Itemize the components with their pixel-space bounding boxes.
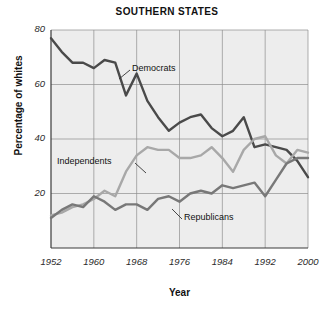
y-tick-label: 60 [23,78,45,89]
series-annotation-independents: Independents [57,156,112,166]
x-tick-label: 1976 [163,256,197,267]
x-tick-label: 2000 [291,256,325,267]
y-tick-label: 40 [23,132,45,143]
y-tick-label: 80 [23,23,45,34]
series-annotation-democrats: Democrats [132,63,176,73]
x-tick-label: 1984 [205,256,239,267]
x-tick-label: 1960 [77,256,111,267]
x-tick-label: 1968 [120,256,154,267]
x-tick-label: 1952 [34,256,68,267]
chart-container: SOUTHERN STATES Percentage of whites Yea… [0,0,334,315]
series-annotation-republicans: Republicans [184,212,234,222]
y-tick-label: 20 [23,187,45,198]
x-tick-label: 1992 [248,256,282,267]
plot-area [0,0,334,315]
